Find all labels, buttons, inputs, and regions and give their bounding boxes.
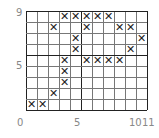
x-mark-icon: ✕ — [125, 22, 136, 33]
x-mark-icon: ✕ — [114, 22, 125, 33]
grid-hline — [26, 77, 147, 78]
x-mark-icon: ✕ — [103, 55, 114, 66]
grid-hline — [26, 88, 147, 89]
grid-vline — [147, 11, 148, 110]
x-mark-icon: ✕ — [114, 55, 125, 66]
grid-vline — [37, 11, 38, 110]
x-mark-icon: ✕ — [48, 88, 59, 99]
x-mark-icon: ✕ — [92, 11, 103, 22]
grid-vline — [136, 11, 137, 110]
y-label-5: 5 — [16, 61, 22, 71]
x-mark-icon: ✕ — [92, 55, 103, 66]
x-label-11: 11 — [142, 118, 155, 128]
x-mark-icon: ✕ — [136, 33, 147, 44]
x-mark-icon: ✕ — [70, 11, 81, 22]
x-mark-icon: ✕ — [59, 11, 70, 22]
x-label-5: 5 — [74, 118, 80, 128]
x-mark-icon: ✕ — [125, 44, 136, 55]
x-mark-icon: ✕ — [70, 44, 81, 55]
x-mark-icon: ✕ — [81, 22, 92, 33]
x-mark-icon: ✕ — [81, 55, 92, 66]
x-mark-icon: ✕ — [37, 99, 48, 110]
x-mark-icon: ✕ — [48, 22, 59, 33]
cell-grid: ✕✕✕✕✕✕✕✕✕✕✕✕✕✕✕✕✕✕✕✕✕✕✕ — [26, 11, 147, 110]
grid-vline — [70, 11, 71, 110]
x-label-0: 0 — [17, 118, 23, 128]
x-label-10: 10 — [129, 118, 142, 128]
x-mark-icon: ✕ — [26, 99, 37, 110]
grid-vline — [26, 11, 27, 110]
x-mark-icon: ✕ — [59, 77, 70, 88]
x-mark-icon: ✕ — [103, 11, 114, 22]
y-label-9: 9 — [16, 8, 22, 18]
